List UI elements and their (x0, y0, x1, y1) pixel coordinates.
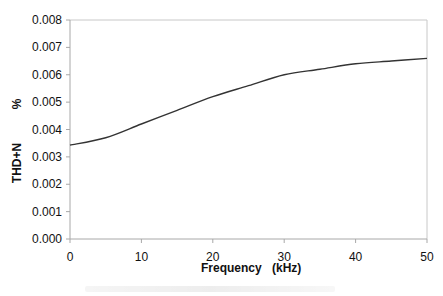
y-tick-label: 0.003 (32, 150, 62, 164)
faint-caption-bleed (85, 286, 335, 292)
y-axis-title: THD+N (10, 143, 24, 183)
y-tick-label: 0.002 (32, 177, 62, 191)
y-tick-label: 0.000 (32, 232, 62, 246)
x-tick-label: 50 (420, 250, 434, 264)
thd-curve (70, 58, 427, 145)
y-tick-label: 0.005 (32, 95, 62, 109)
y-tick-label: 0.008 (32, 13, 62, 27)
y-tick-label: 0.001 (32, 205, 62, 219)
x-tick-label: 0 (67, 250, 74, 264)
y-axis-unit: % (10, 98, 24, 109)
thd-frequency-chart: 0.0000.0010.0020.0030.0040.0050.0060.007… (0, 0, 443, 296)
y-tick-label: 0.007 (32, 40, 62, 54)
y-axis: 0.0000.0010.0020.0030.0040.0050.0060.007… (32, 13, 70, 246)
x-tick-label: 40 (349, 250, 363, 264)
x-axis-unit: (kHz) (272, 261, 301, 275)
y-tick-label: 0.004 (32, 123, 62, 137)
x-tick-label: 10 (135, 250, 149, 264)
y-tick-label: 0.006 (32, 68, 62, 82)
plot-frame (70, 20, 427, 239)
x-axis-title: Frequency (201, 261, 262, 275)
